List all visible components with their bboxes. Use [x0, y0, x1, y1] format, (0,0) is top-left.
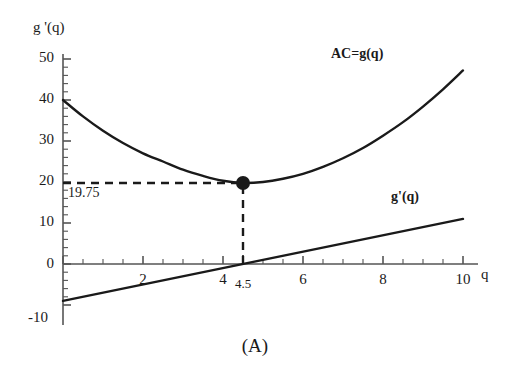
series-average-cost-curve [63, 70, 463, 183]
x-tick-label-6: 6 [288, 272, 318, 287]
curve-label-average-cost: AC=g(q) [331, 47, 383, 61]
y-tick-label-20: 20 [20, 173, 54, 188]
y-tick-label-50: 50 [20, 50, 54, 65]
figure-panel: 50 40 30 20 10 0 -10 2 4 4.5 6 8 10 g '(… [0, 0, 510, 382]
x-tick-label-10: 10 [448, 272, 478, 287]
x-tick-label-4point5: 4.5 [226, 277, 260, 290]
annotation-minimum-value: 19.75 [68, 186, 100, 200]
x-tick-label-8: 8 [368, 272, 398, 287]
y-tick-label-minus10: -10 [14, 310, 48, 325]
y-tick-label-10: 10 [20, 214, 54, 229]
x-axis-title: q [481, 267, 489, 282]
curve-label-marginal-cost: g'(q) [391, 190, 419, 204]
marker-point-minimum [236, 176, 250, 190]
y-tick-label-0: 0 [20, 256, 54, 271]
marker-points-group [236, 176, 250, 190]
y-tick-label-40: 40 [20, 91, 54, 106]
figure-caption: (A) [0, 336, 510, 355]
y-tick-label-30: 30 [20, 132, 54, 147]
x-tick-label-2: 2 [128, 272, 158, 287]
series-group [63, 70, 463, 300]
y-axis-title: g '(q) [33, 20, 64, 35]
